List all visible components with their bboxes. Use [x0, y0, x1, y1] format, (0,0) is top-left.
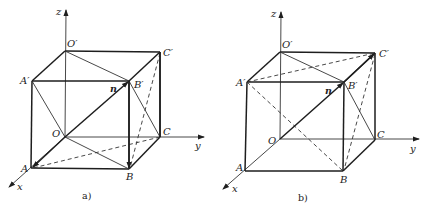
- vector-n: [280, 83, 343, 139]
- cube-diagrams: z y x O′ C′ A′ B′ O C A B n a): [0, 0, 424, 210]
- label-a: A: [20, 163, 28, 174]
- label-b: B: [125, 171, 133, 182]
- vector-n: [65, 82, 128, 137]
- label-b: B: [339, 174, 347, 185]
- label-b-prime: B′: [133, 79, 144, 90]
- figure-b: z y x O′ C′ A′ B′ O C A B n b): [223, 8, 419, 203]
- label-a-prime: A′: [19, 75, 30, 86]
- label-z: z: [55, 6, 62, 17]
- vector-b1c1: [344, 54, 374, 82]
- x-axis: [223, 139, 280, 189]
- label-o-prime: O′: [67, 38, 78, 49]
- label-o: O: [268, 135, 276, 146]
- caption-b: b): [298, 192, 308, 203]
- label-a-prime: A′: [235, 77, 246, 88]
- caption-a: a): [82, 190, 91, 201]
- diag-o1-b1: [65, 51, 129, 81]
- z-axis: [280, 12, 281, 139]
- label-o: O: [52, 128, 60, 139]
- label-y: y: [194, 140, 201, 151]
- dashed-c-a: [33, 137, 160, 168]
- figure-a: z y x O′ C′ A′ B′ O C A B n a): [9, 6, 204, 201]
- dashed-c1-b: [130, 53, 160, 168]
- label-n: n: [110, 83, 117, 94]
- label-x: x: [232, 183, 238, 194]
- label-o-prime: O′: [282, 39, 293, 50]
- diag-o-b: [65, 137, 129, 169]
- label-y: y: [409, 143, 416, 154]
- vector-oa: [33, 137, 65, 167]
- label-c-prime: C′: [379, 48, 390, 59]
- label-b-prime: B′: [347, 80, 358, 91]
- label-a: A: [235, 162, 243, 173]
- dashed-a1-c1: [247, 53, 375, 82]
- label-c: C: [163, 126, 171, 137]
- label-n: n: [325, 85, 332, 96]
- label-c: C: [377, 129, 385, 140]
- label-z: z: [270, 8, 277, 19]
- dashed-c1-b: [344, 54, 375, 170]
- z-axis: [65, 10, 66, 137]
- label-x: x: [17, 181, 23, 192]
- label-c-prime: C′: [163, 47, 174, 58]
